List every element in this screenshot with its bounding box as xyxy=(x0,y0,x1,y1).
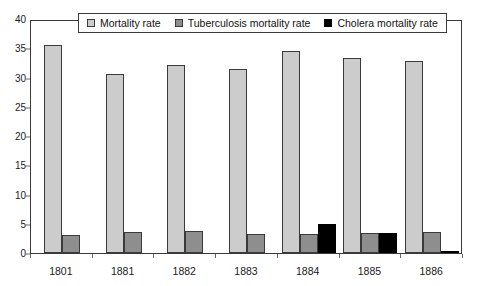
bar xyxy=(441,251,459,253)
bar xyxy=(318,224,336,253)
bar xyxy=(405,61,423,253)
x-axis: 1801188118821883188418851886 xyxy=(30,254,462,286)
bar xyxy=(300,234,318,253)
bar-group xyxy=(405,21,459,253)
legend-label: Mortality rate xyxy=(100,18,161,29)
bar-group xyxy=(343,21,397,253)
bar xyxy=(167,65,185,253)
bar xyxy=(282,51,300,253)
bar xyxy=(343,58,361,253)
x-axis-tick-mark xyxy=(153,254,154,258)
bar xyxy=(62,235,80,253)
legend-item[interactable]: Mortality rate xyxy=(87,18,161,29)
bar xyxy=(247,234,265,253)
legend-item[interactable]: Tuberculosis mortality rate xyxy=(175,18,311,29)
bar-group xyxy=(106,21,142,253)
x-axis-tick-mark xyxy=(400,254,401,258)
bar xyxy=(379,233,397,253)
bar xyxy=(185,231,203,253)
legend-swatch-icon xyxy=(175,19,183,27)
bar-chart: 0510152025303540 Mortality rateTuberculo… xyxy=(0,0,479,286)
y-axis-tick-label: 20 xyxy=(15,132,26,142)
plot-area xyxy=(30,20,462,254)
bar xyxy=(106,74,124,253)
bar-group xyxy=(167,21,203,253)
x-axis-tick-mark xyxy=(339,254,340,258)
x-axis-tick-mark xyxy=(215,254,216,258)
legend-swatch-icon xyxy=(324,19,332,27)
bar xyxy=(229,69,247,253)
legend-swatch-icon xyxy=(87,19,95,27)
x-axis-tick-label: 1885 xyxy=(358,266,381,277)
legend-label: Tuberculosis mortality rate xyxy=(188,18,311,29)
bar xyxy=(44,45,62,253)
y-axis: 0510152025303540 xyxy=(0,20,30,254)
bar-group xyxy=(282,21,336,253)
y-axis-tick-label: 35 xyxy=(15,44,26,54)
bar xyxy=(423,232,441,253)
legend-item[interactable]: Cholera mortality rate xyxy=(324,18,437,29)
x-axis-tick-label: 1881 xyxy=(111,266,134,277)
x-axis-tick-label: 1882 xyxy=(173,266,196,277)
x-axis-tick-mark xyxy=(30,254,31,258)
x-axis-tick-label: 1801 xyxy=(49,266,72,277)
y-axis-tick-label: 25 xyxy=(15,103,26,113)
bar xyxy=(361,233,379,253)
legend-label: Cholera mortality rate xyxy=(337,18,437,29)
y-axis-tick-label: 30 xyxy=(15,74,26,84)
x-axis-tick-label: 1886 xyxy=(419,266,442,277)
x-axis-tick-mark xyxy=(277,254,278,258)
y-axis-tick-label: 40 xyxy=(15,15,26,25)
y-axis-tick-label: 10 xyxy=(15,191,26,201)
x-axis-tick-mark xyxy=(92,254,93,258)
bar-group xyxy=(229,21,265,253)
bar-group xyxy=(44,21,80,253)
chart-legend: Mortality rateTuberculosis mortality rat… xyxy=(78,13,447,33)
x-axis-tick-label: 1883 xyxy=(234,266,257,277)
x-axis-tick-label: 1884 xyxy=(296,266,319,277)
x-axis-tick-mark xyxy=(462,254,463,258)
bar xyxy=(124,232,142,253)
y-axis-tick-label: 15 xyxy=(15,161,26,171)
